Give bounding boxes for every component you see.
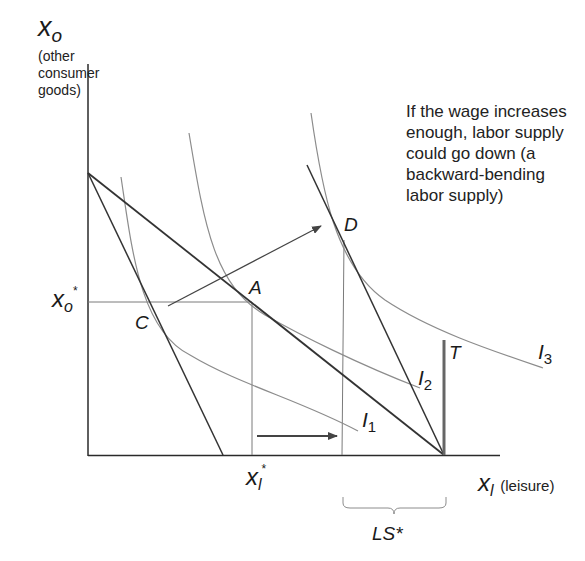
arrow-c-to-d — [168, 226, 321, 306]
indifference-curve-i2 — [189, 133, 420, 388]
endowment-t-label: T — [449, 342, 461, 364]
i3-label: I3 — [538, 340, 552, 367]
budget-line-low — [88, 173, 223, 455]
point-a-label: A — [249, 277, 262, 299]
annotation-note: If the wage increases enough, labor supp… — [406, 101, 585, 206]
xo-star-label: xo* — [52, 284, 78, 316]
i2-label: I2 — [418, 366, 432, 393]
point-c-label: C — [135, 312, 149, 334]
ls-brace — [343, 497, 446, 514]
y-axis-title: xo — [38, 12, 62, 47]
labor-supply-label: LS* — [372, 523, 403, 545]
y-axis-description: (other consumer goods) — [38, 48, 99, 99]
xl-star-label: xl* — [246, 462, 266, 494]
point-d-label: D — [344, 214, 358, 236]
i1-label: I1 — [362, 408, 376, 435]
indifference-curve-i1 — [121, 177, 358, 431]
x-axis-title: xl (leisure) — [478, 469, 554, 500]
